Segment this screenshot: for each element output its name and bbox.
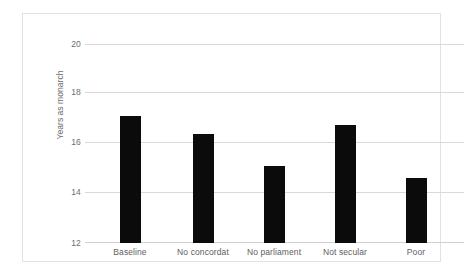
gridline-18	[85, 92, 464, 93]
bar-not-secular	[335, 125, 356, 243]
bar-no-concordat	[193, 134, 214, 243]
y-axis-ticks: 20 18 16 14 12	[35, 44, 81, 243]
x-tick-label-not-secular: Not secular	[323, 247, 367, 257]
plot-area	[85, 44, 464, 243]
y-tick-label: 16	[41, 137, 81, 147]
chart-frame: Years as monarch 20 18 16 14 12 Baseline…	[22, 13, 441, 262]
bar-no-parliament	[264, 166, 285, 243]
x-tick-label-no-concordat: No concordat	[177, 247, 229, 257]
bar-baseline	[120, 116, 141, 243]
y-tick-label: 20	[41, 39, 81, 49]
x-axis-ticks: Baseline No concordat No parliament Not …	[85, 247, 464, 267]
x-tick-label-baseline: Baseline	[113, 247, 146, 257]
gridline-20	[85, 44, 464, 45]
y-tick-label: 14	[41, 187, 81, 197]
x-tick-label-poor: Poor	[407, 247, 425, 257]
bar-poor	[406, 178, 427, 243]
y-tick-label: 18	[41, 87, 81, 97]
y-tick-label: 12	[41, 238, 81, 248]
gridline-16	[85, 142, 464, 143]
x-tick-label-no-parliament: No parliament	[247, 247, 301, 257]
